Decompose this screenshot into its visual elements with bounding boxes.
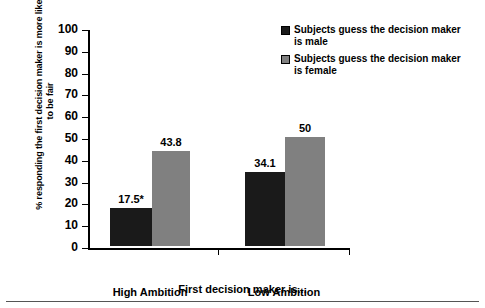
bar-high-ambition-male: 17.5* bbox=[110, 208, 152, 246]
bar-value-high-ambition-female: 43.8 bbox=[160, 136, 181, 148]
y-tick-label-100: 100 bbox=[48, 22, 78, 36]
y-tick-60: 60 bbox=[82, 117, 88, 118]
legend-item-male: Subjects guess the decision maker is mal… bbox=[281, 24, 481, 48]
y-tick-label-30: 30 bbox=[48, 175, 78, 189]
y-tick-label-80: 80 bbox=[48, 66, 78, 80]
legend-swatch-male-icon bbox=[281, 26, 290, 35]
bar-value-high-ambition-male: 17.5* bbox=[118, 193, 144, 205]
y-axis-line bbox=[88, 30, 90, 249]
y-tick-30: 30 bbox=[82, 183, 88, 184]
x-tick-end bbox=[349, 248, 350, 255]
y-tick-10: 10 bbox=[82, 226, 88, 227]
y-tick-label-70: 70 bbox=[48, 87, 78, 101]
y-tick-40: 40 bbox=[82, 161, 88, 162]
y-tick-70: 70 bbox=[82, 95, 88, 96]
bar-value-low-ambition-male: 34.1 bbox=[254, 157, 275, 169]
y-tick-100: 100 bbox=[82, 30, 88, 31]
legend-label-male: Subjects guess the decision maker is mal… bbox=[294, 24, 464, 48]
bottom-divider bbox=[6, 301, 479, 302]
y-tick-label-40: 40 bbox=[48, 153, 78, 167]
bar-low-ambition-male: 34.1 bbox=[245, 172, 285, 246]
y-tick-0: 0 bbox=[82, 248, 88, 249]
x-tick-group-separator bbox=[218, 248, 219, 255]
y-tick-label-0: 0 bbox=[48, 240, 78, 254]
y-tick-label-60: 60 bbox=[48, 109, 78, 123]
chart-legend: Subjects guess the decision maker is mal… bbox=[281, 24, 481, 82]
bar-value-low-ambition-female: 50 bbox=[299, 122, 311, 134]
x-axis-title: First decision maker is... bbox=[0, 283, 485, 295]
legend-item-female: Subjects guess the decision maker is fem… bbox=[281, 53, 481, 77]
y-tick-label-20: 20 bbox=[48, 196, 78, 210]
x-axis-line bbox=[88, 248, 350, 250]
y-tick-label-10: 10 bbox=[48, 218, 78, 232]
y-tick-label-90: 90 bbox=[48, 44, 78, 58]
y-tick-20: 20 bbox=[82, 204, 88, 205]
y-tick-label-50: 50 bbox=[48, 131, 78, 145]
y-tick-90: 90 bbox=[82, 52, 88, 53]
bar-low-ambition-female: 50 bbox=[285, 137, 325, 246]
bar-high-ambition-female: 43.8 bbox=[152, 151, 190, 247]
y-tick-50: 50 bbox=[82, 139, 88, 140]
y-tick-80: 80 bbox=[82, 74, 88, 75]
legend-label-female: Subjects guess the decision maker is fem… bbox=[294, 53, 464, 77]
legend-swatch-female-icon bbox=[281, 55, 290, 64]
bar-chart-figure: % responding the first decision maker is… bbox=[0, 0, 485, 308]
